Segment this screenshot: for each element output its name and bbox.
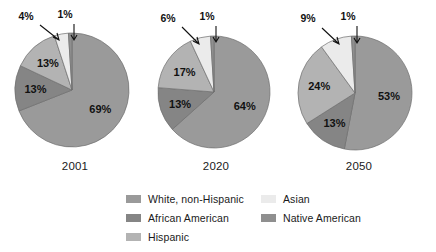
slice-label-white-non-hispanic: 53%: [378, 90, 400, 102]
slice-label-african-american: 13%: [169, 98, 191, 110]
callout-arrow-native-american: [354, 26, 360, 43]
legend-label-hispanic: Hispanic: [148, 231, 189, 243]
legend-swatch-african-american: [126, 214, 141, 222]
legend-swatch-asian: [261, 195, 276, 203]
legend-swatch-native-american: [261, 214, 276, 222]
slice-label-hispanic: 24%: [308, 80, 330, 92]
pie-chart-group: 69%13%13%4%1%200164%13%17%6%1%202053%13%…: [0, 0, 436, 186]
slice-label-native-american: 1%: [57, 8, 73, 20]
pie-chart-2050: 53%13%24%9%1%2050: [286, 0, 432, 186]
pie-year-label: 2050: [286, 160, 432, 172]
slice-label-hispanic: 13%: [37, 57, 59, 69]
legend-item: White, non-Hispanic: [126, 189, 244, 208]
slice-label-asian: 6%: [160, 12, 176, 24]
pie-chart-2001: 69%13%13%4%1%2001: [2, 0, 148, 186]
slice-label-african-american: 13%: [24, 83, 46, 95]
slice-label-asian: 9%: [300, 12, 316, 24]
legend-label-native-american: Native American: [283, 212, 361, 224]
slice-label-asian: 4%: [18, 10, 34, 22]
slice-label-native-american: 1%: [340, 10, 356, 22]
slice-label-african-american: 13%: [323, 117, 345, 129]
legend-column-left: White, non-Hispanic African American His…: [126, 189, 244, 246]
pie-svg-2050: 53%13%24%9%1%: [286, 0, 432, 186]
legend-swatch-white-non-hispanic: [126, 195, 141, 203]
pie-year-label: 2001: [2, 160, 148, 172]
legend-item: Hispanic: [126, 227, 244, 246]
legend-column-right: Asian Native American: [261, 189, 361, 227]
legend-label-asian: Asian: [283, 193, 310, 205]
legend-swatch-hispanic: [126, 233, 141, 241]
slice-label-hispanic: 17%: [174, 66, 196, 78]
chart-legend: White, non-Hispanic African American His…: [0, 186, 436, 252]
legend-item: Asian: [261, 189, 361, 208]
legend-label-african-american: African American: [148, 212, 229, 224]
legend-label-white-non-hispanic: White, non-Hispanic: [148, 193, 244, 205]
pie-chart-2020: 64%13%17%6%1%2020: [143, 0, 289, 186]
slice-label-white-non-hispanic: 64%: [234, 100, 256, 112]
legend-item: African American: [126, 208, 244, 227]
slice-label-white-non-hispanic: 69%: [89, 103, 111, 115]
pie-svg-2020: 64%13%17%6%1%: [143, 0, 289, 186]
pie-svg-2001: 69%13%13%4%1%: [2, 0, 148, 186]
slice-label-native-american: 1%: [199, 10, 215, 22]
pie-chart-figure: 69%13%13%4%1%200164%13%17%6%1%202053%13%…: [0, 0, 436, 252]
legend-item: Native American: [261, 208, 361, 227]
pie-year-label: 2020: [143, 160, 289, 172]
